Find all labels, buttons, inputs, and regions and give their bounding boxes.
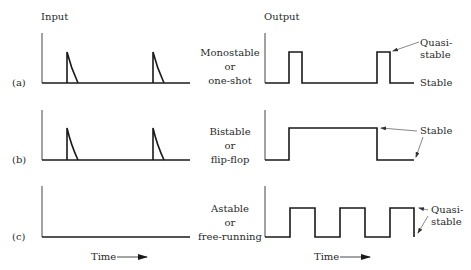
leader-line (381, 128, 417, 131)
mode-label: Monostable (200, 47, 259, 58)
note-stable-2: stable (431, 216, 462, 227)
mode-or: or (225, 217, 236, 228)
row-label-a: (a) (12, 77, 26, 88)
time-label: Time (314, 251, 339, 262)
output-header: Output (264, 11, 300, 22)
mode-or: or (225, 140, 236, 151)
input-trigger-pulse (153, 52, 164, 83)
mode-or: or (225, 61, 236, 72)
row-a: (a) Monostable or one-shot Quasi- stable… (12, 33, 452, 88)
multivibrator-diagram: Input Output (a) Monostable or one-shot … (0, 0, 471, 270)
input-trigger-pulse (67, 52, 78, 83)
mode-alt-label: one-shot (208, 75, 251, 86)
note-stable: Stable (420, 77, 452, 88)
leader-line (418, 216, 428, 233)
leader-line (416, 137, 423, 157)
input-trigger-pulse (67, 128, 78, 160)
row-b: (b) Bistable or flip-flop Stable (12, 110, 452, 165)
row-label-b: (b) (12, 154, 26, 165)
input-trigger-pulse (153, 128, 164, 160)
time-label: Time (91, 251, 116, 262)
output-waveform-c (265, 208, 414, 237)
note-quasi: Quasi- (431, 204, 463, 215)
input-header: Input (41, 11, 68, 22)
mode-label: Bistable (209, 126, 250, 137)
mode-label: Astable (210, 203, 249, 214)
leader-line (419, 208, 428, 210)
leader-line (393, 42, 419, 51)
time-axis-output: Time (314, 251, 370, 262)
mode-alt-label: flip-flop (211, 154, 250, 165)
note-stable: Stable (420, 125, 452, 136)
note-stable-2: stable (420, 49, 451, 60)
row-label-c: (c) (12, 231, 26, 242)
time-axis-input: Time (91, 251, 147, 262)
note-quasi: Quasi- (420, 37, 452, 48)
output-waveform-a (265, 52, 414, 83)
output-waveform-b (265, 128, 414, 160)
row-c: (c) Astable or free-running Quasi- stabl… (12, 186, 463, 242)
mode-alt-label: free-running (198, 231, 262, 242)
